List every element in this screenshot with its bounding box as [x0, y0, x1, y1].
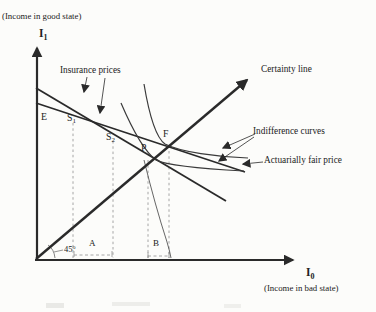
insurance-diagram-figure: (Income in good state) I1 I0 (Income in …	[0, 0, 376, 312]
bracket-segment-a	[74, 251, 112, 257]
certainty-line-label: Certainty line	[261, 64, 312, 74]
angle-45-pointer	[54, 250, 63, 252]
y-axis-caption: (Income in good state)	[2, 11, 81, 21]
point-label-f: F	[163, 128, 169, 139]
segment-label-a: A	[89, 238, 96, 248]
insurance-prices-label: Insurance prices	[60, 65, 121, 75]
point-label-s2: S2	[106, 131, 115, 144]
bracket-segment-b	[148, 252, 169, 258]
scan-smudge-3	[224, 304, 241, 308]
actuarially-fair-price-arrow	[243, 162, 263, 164]
indifference-curves-label: Indifference curves	[253, 126, 325, 136]
point-label-p: P	[141, 142, 147, 153]
indifference-curves-arrow-1	[223, 134, 255, 148]
segment-label-b: B	[153, 238, 159, 248]
scan-smudge-1	[46, 303, 64, 308]
y-axis-symbol: I1	[39, 27, 47, 42]
insurance-prices-arrow-1	[84, 77, 87, 92]
scan-smudge-2	[112, 302, 150, 306]
diagram-canvas: (Income in good state) I1 I0 (Income in …	[0, 0, 376, 312]
point-label-s1: S1	[67, 112, 76, 125]
x-axis-caption: (Income in bad state)	[264, 283, 339, 293]
insurance-prices-arrow-2	[100, 78, 105, 113]
indifference-curve-2	[144, 84, 248, 158]
actuarially-fair-price-label: Actuarially fair price	[264, 155, 342, 165]
point-label-e: E	[41, 111, 47, 122]
insurance-price-line-steep	[36, 88, 226, 201]
x-axis-symbol: I0	[306, 266, 314, 281]
